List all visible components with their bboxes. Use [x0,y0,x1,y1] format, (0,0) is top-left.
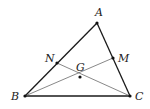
median-cn [57,63,130,96]
label-b: B [10,90,19,103]
point-b [23,94,26,97]
label-a: A [94,6,103,19]
segment-ab [25,23,97,96]
label-c: C [135,90,144,103]
median-bm [25,58,113,96]
point-n [55,61,58,64]
label-g: G [76,61,85,74]
point-g [78,75,81,78]
point-c [128,94,131,97]
point-m [111,56,114,59]
label-m: M [117,52,130,65]
triangle-diagram: A B C N M G [0,0,150,109]
label-n: N [44,52,55,65]
point-a [95,21,98,24]
